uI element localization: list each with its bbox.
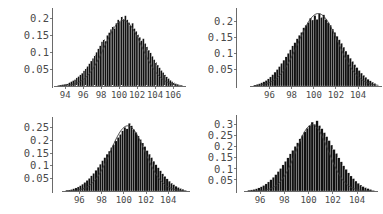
y-tick-label: 0.1 xyxy=(214,163,233,175)
x-tick-label: 102 xyxy=(325,195,341,205)
y-tick-label: 0.15 xyxy=(208,151,233,163)
x-tick-label: 96 xyxy=(74,195,85,205)
x-tick-label: 96 xyxy=(78,90,89,100)
x-tick-label: 98 xyxy=(96,195,107,205)
x-tick-label: 94 xyxy=(60,90,71,100)
x-tick-label: 98 xyxy=(96,90,107,100)
x-tick-label: 104 xyxy=(349,195,365,205)
x-axis: 9698100102104 xyxy=(250,87,382,101)
x-tick-label: 102 xyxy=(328,90,344,100)
panel-plot-4: 96981001021040.050.10.150.20.250.3 xyxy=(192,107,383,214)
histogram-bars xyxy=(254,14,376,86)
panel-plot-1: 9496981001021041060.050.10.150.2 xyxy=(0,0,191,107)
panel-plot-3: 96981001021040.050.10.150.20.25 xyxy=(0,107,191,214)
y-tick-label: 0.05 xyxy=(24,63,49,75)
histogram-panel-3: 96981001021040.050.10.150.20.25 xyxy=(0,107,191,214)
x-axis: 9698100102104 xyxy=(244,192,378,206)
x-tick-label: 96 xyxy=(264,90,275,100)
y-axis: 0.050.10.150.2 xyxy=(24,8,53,88)
x-tick-label: 96 xyxy=(255,195,266,205)
y-tick-label: 0.3 xyxy=(214,118,233,130)
x-tick-label: 98 xyxy=(279,195,290,205)
x-tick-label: 102 xyxy=(138,195,154,205)
y-axis: 0.050.10.150.20.25 xyxy=(24,117,53,193)
histogram-bars xyxy=(58,16,178,86)
panel-plot-2: 96981001021040.050.10.150.2 xyxy=(192,0,383,107)
x-axis: 949698100102104106 xyxy=(54,87,186,101)
histogram-panel-2: 96981001021040.050.10.150.2 xyxy=(192,0,383,107)
x-tick-label: 98 xyxy=(286,90,297,100)
y-tick-label: 0.2 xyxy=(214,15,233,27)
y-tick-label: 0.25 xyxy=(208,129,233,141)
y-tick-label: 0.05 xyxy=(24,172,49,184)
histogram-figure: 9496981001021041060.050.10.150.296981001… xyxy=(0,0,383,214)
histogram-bars xyxy=(248,121,372,191)
y-tick-label: 0.05 xyxy=(208,174,233,186)
y-tick-label: 0.15 xyxy=(24,147,49,159)
y-tick-label: 0.2 xyxy=(30,134,49,146)
x-tick-label: 104 xyxy=(350,90,366,100)
y-tick-label: 0.1 xyxy=(214,47,233,59)
y-tick-label: 0.2 xyxy=(214,140,233,152)
histogram-panel-4: 96981001021040.050.10.150.20.250.3 xyxy=(192,107,383,214)
x-tick-label: 106 xyxy=(165,90,181,100)
y-axis: 0.050.10.150.2 xyxy=(208,8,237,88)
y-tick-label: 0.15 xyxy=(24,29,49,41)
x-tick-label: 100 xyxy=(116,195,132,205)
y-tick-label: 0.2 xyxy=(30,12,49,24)
y-tick-label: 0.15 xyxy=(208,31,233,43)
x-tick-label: 104 xyxy=(147,90,163,100)
x-tick-label: 100 xyxy=(111,90,127,100)
histogram-panel-1: 9496981001021041060.050.10.150.2 xyxy=(0,0,191,107)
y-tick-label: 0.1 xyxy=(30,159,49,171)
x-tick-label: 102 xyxy=(129,90,145,100)
y-tick-label: 0.1 xyxy=(30,46,49,58)
histogram-bars xyxy=(66,123,184,191)
y-tick-label: 0.25 xyxy=(24,121,49,133)
y-tick-label: 0.05 xyxy=(208,63,233,75)
x-tick-label: 100 xyxy=(300,195,316,205)
x-axis: 9698100102104 xyxy=(62,192,190,206)
x-tick-label: 100 xyxy=(306,90,322,100)
x-tick-label: 104 xyxy=(160,195,176,205)
y-axis: 0.050.10.150.20.250.3 xyxy=(208,115,237,193)
